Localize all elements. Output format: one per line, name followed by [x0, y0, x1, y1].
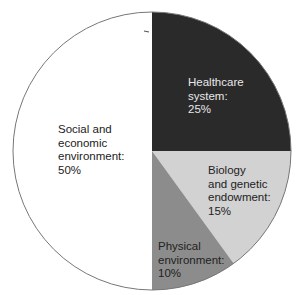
pie-slices — [13, 12, 291, 290]
label-biology-genetic-endowment: Biology and genetic endowment: 15% — [208, 164, 271, 218]
label-healthcare-system: Healthcare system: 25% — [188, 76, 244, 117]
label-social-economic-environment: Social and economic environment: 50% — [58, 123, 124, 177]
label-physical-environment: Physical environment: 10% — [158, 240, 224, 281]
pie-chart — [0, 0, 303, 295]
